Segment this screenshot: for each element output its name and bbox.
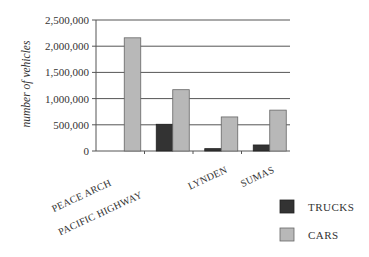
bars [124, 38, 286, 151]
legend-swatch-trucks [280, 200, 294, 213]
bar-cars-peace-arch [124, 38, 141, 151]
x-category-label: LYNDEN [186, 164, 229, 192]
x-axis-categories: PEACE ARCHPACIFIC HIGHWAYLYNDENSUMAS [50, 164, 276, 238]
bar-trucks-lynden [205, 149, 222, 151]
y-axis-ticks: 0500,0001,000,0001,500,0002,000,0002,500… [45, 14, 96, 157]
bar-cars-pacific-highway [173, 90, 190, 151]
legend-label-cars: CARS [308, 229, 339, 241]
legend-label-trucks: TRUCKS [308, 201, 354, 213]
bar-cars-lynden [221, 117, 238, 151]
y-tick-label: 1,500,000 [45, 66, 90, 78]
y-tick-label: 2,500,000 [45, 14, 90, 26]
legend-swatch-cars [280, 228, 294, 241]
bar-cars-sumas [270, 110, 287, 151]
bar-trucks-sumas [253, 145, 270, 151]
y-tick-label: 1,000,000 [45, 93, 90, 105]
bar-trucks-pacific-highway [156, 124, 173, 151]
y-tick-label: 500,000 [53, 119, 89, 131]
y-axis-label: number of vehicles [20, 40, 33, 127]
y-tick-label: 0 [84, 145, 90, 157]
y-tick-label: 2,000,000 [45, 40, 90, 52]
legend: TRUCKSCARS [280, 200, 354, 241]
x-category-label: SUMAS [239, 164, 276, 189]
bar-chart: 0500,0001,000,0001,500,0002,000,0002,500… [0, 0, 369, 257]
